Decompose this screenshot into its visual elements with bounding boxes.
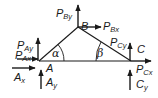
angle-label-beta: β: [97, 48, 103, 59]
truss-diagram: B A C α β PBy PBx PAy PAx Ax Ay PCy PCx …: [0, 0, 158, 98]
reaction-label-ax: Ax: [14, 72, 25, 85]
force-label-pax: PAx: [15, 50, 31, 63]
reaction-label-ay: Ay: [46, 77, 57, 90]
force-label-pby: PBy: [56, 8, 72, 21]
force-label-pcx: PCx: [136, 64, 153, 77]
force-label-pcy: PCy: [110, 37, 127, 50]
node-label-a: A: [46, 63, 53, 74]
node-label-c: C: [137, 44, 145, 55]
force-label-pbx: PBx: [103, 21, 119, 34]
node-label-b: B: [81, 21, 88, 32]
reaction-label-cy: Cy: [136, 79, 148, 92]
angle-label-alpha: α: [52, 48, 59, 59]
